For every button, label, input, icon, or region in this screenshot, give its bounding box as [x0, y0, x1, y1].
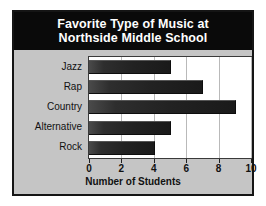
x-tick-label-4: 4 — [151, 163, 157, 174]
chart-title-banner: Favorite Type of Music at Northside Midd… — [14, 12, 252, 50]
bar-row — [89, 100, 251, 114]
category-label-rock: Rock — [14, 137, 86, 157]
chart-title-line-2: Northside Middle School — [59, 31, 208, 45]
bar-row — [89, 60, 251, 74]
bar-rap[interactable] — [89, 80, 203, 94]
x-tick-label-0: 0 — [86, 163, 92, 174]
chart-title-line-1-visible: Favorite Type of Music at — [57, 17, 209, 31]
category-label-jazz: Jazz — [14, 56, 86, 76]
bar-row — [89, 141, 251, 155]
x-axis-title: Number of Students — [14, 176, 252, 187]
bar-jazz[interactable] — [89, 60, 171, 74]
plot-area — [88, 56, 252, 159]
bar-rock[interactable] — [89, 141, 155, 155]
gridline-10 — [251, 57, 252, 158]
bar-country[interactable] — [89, 100, 236, 114]
bar-series — [89, 57, 251, 158]
bar-alternative[interactable] — [89, 121, 171, 135]
category-axis: Jazz Rap Country Alternative Rock — [14, 56, 86, 157]
bar-row — [89, 80, 251, 94]
bar-row — [89, 121, 251, 135]
category-label-country: Country — [14, 96, 86, 116]
x-axis: 0246810 — [88, 159, 252, 175]
chart-figure: Favorite Type of Music at Northside Midd… — [12, 10, 254, 196]
x-tick-label-10: 10 — [245, 163, 256, 174]
x-tick-label-8: 8 — [216, 163, 222, 174]
category-label-rap: Rap — [14, 76, 86, 96]
x-tick-label-6: 6 — [183, 163, 189, 174]
chart-body: Jazz Rap Country Alternative Rock 024681… — [14, 50, 252, 194]
category-label-alternative: Alternative — [14, 117, 86, 137]
x-tick-label-2: 2 — [119, 163, 125, 174]
